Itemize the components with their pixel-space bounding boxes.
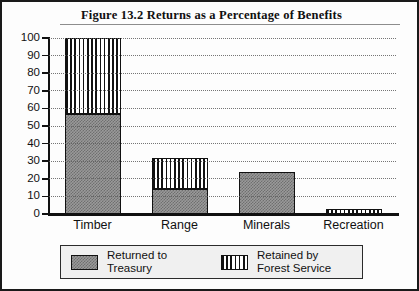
figure-title-wrap: Figure 13.2 Returns as a Percentage of B…	[2, 5, 419, 23]
x-axis-category-label: Minerals	[222, 218, 312, 232]
gridline	[49, 55, 397, 56]
y-axis-tick	[42, 160, 49, 162]
legend-label-returned-line1: Returned to	[107, 249, 167, 261]
y-axis-tick	[42, 72, 49, 74]
gridline	[49, 38, 397, 39]
gridline	[49, 90, 397, 91]
bar-segment-retained[interactable]	[65, 38, 121, 114]
x-axis-category-label: Range	[135, 218, 225, 232]
y-axis-tick	[42, 143, 49, 145]
y-axis-tick-label: 60	[27, 102, 40, 114]
legend-item-returned-to-treasury: Returned to Treasury	[71, 246, 167, 278]
y-axis-tick-label: 30	[27, 155, 40, 167]
gridline	[49, 126, 397, 127]
legend-label-returned: Returned to Treasury	[107, 249, 167, 275]
legend-label-retained: Retained by Forest Service	[257, 249, 331, 275]
bar-segment-returned[interactable]	[65, 114, 121, 214]
y-axis-tick	[42, 125, 49, 127]
y-axis-tick	[42, 55, 49, 57]
gridline	[49, 73, 397, 74]
bar-segment-retained[interactable]	[152, 158, 208, 190]
y-axis-tick-label: 40	[27, 138, 40, 150]
y-axis-tick-label: 90	[27, 50, 40, 62]
y-axis-tick-label: 50	[27, 120, 40, 132]
y-axis-tick-label: 0	[34, 208, 40, 220]
y-axis-labels: 0102030405060708090100	[2, 38, 40, 214]
page-title: Figure 13.2 Returns as a Percentage of B…	[81, 8, 342, 22]
gridline	[49, 196, 397, 197]
gridline	[49, 108, 397, 109]
title-divider	[60, 24, 400, 25]
bar-segment-returned[interactable]	[152, 189, 208, 214]
legend-label-retained-line1: Retained by	[257, 249, 318, 261]
y-axis-tick-label: 10	[27, 190, 40, 202]
y-axis-tick	[42, 196, 49, 198]
x-axis-category-label: Timber	[48, 218, 138, 232]
y-axis-tick-label: 100	[21, 32, 40, 44]
x-axis-labels: TimberRangeMineralsRecreation	[49, 218, 397, 236]
x-axis-category-label: Recreation	[309, 218, 399, 232]
figure-panel: Figure 13.2 Returns as a Percentage of B…	[0, 0, 419, 291]
y-axis-tick	[42, 108, 49, 110]
y-axis-tick-label: 20	[27, 173, 40, 185]
y-axis-tick-label: 70	[27, 85, 40, 97]
gridline	[49, 178, 397, 179]
plot-area	[49, 38, 397, 214]
y-axis-tick	[42, 90, 49, 92]
legend-label-retained-line2: Forest Service	[257, 262, 331, 274]
y-axis-tick	[42, 178, 49, 180]
solid-gray-swatch-icon	[71, 255, 98, 270]
gridline	[49, 143, 397, 144]
y-axis-tick-label: 80	[27, 67, 40, 79]
legend: Returned to Treasury Retained by Forest …	[60, 245, 363, 279]
y-axis-tick	[42, 37, 49, 39]
vertical-stripe-swatch-icon	[221, 255, 248, 270]
legend-label-returned-line2: Treasury	[107, 262, 152, 274]
gridline	[49, 161, 397, 162]
legend-item-retained-by-forest-service: Retained by Forest Service	[221, 246, 331, 278]
y-axis-tick	[42, 213, 49, 215]
bar-segment-retained[interactable]	[326, 209, 382, 214]
